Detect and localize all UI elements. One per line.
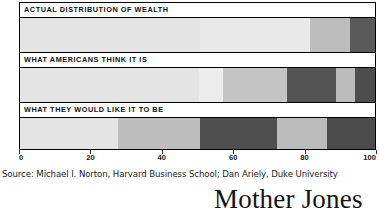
- chart-row-actual: ACTUAL DISTRIBUTION OF WEALTH: [19, 2, 376, 52]
- x-axis: 0 20 40 60 80 100: [19, 150, 376, 168]
- mother-jones-logo: Mother Jones: [214, 186, 363, 212]
- axis-tick-label: 0: [19, 154, 23, 162]
- axis-tick: [376, 150, 377, 154]
- row-label-would-like: WHAT THEY WOULD LIKE IT TO BE: [19, 106, 164, 113]
- chart-row-think: WHAT AMERICANS THINK IT IS: [19, 52, 376, 102]
- chart-row-would-like: WHAT THEY WOULD LIKE IT TO BE: [19, 102, 376, 150]
- axis-tick-label: 40: [158, 154, 166, 162]
- axis-tick-label: 60: [229, 154, 237, 162]
- row-label-band-actual: ACTUAL DISTRIBUTION OF WEALTH: [19, 2, 376, 18]
- row-label-band-think: WHAT AMERICANS THINK IT IS: [19, 52, 376, 68]
- wealth-distribution-chart: ACTUAL DISTRIBUTION OF WEALTH WHAT AMERI…: [0, 0, 379, 212]
- axis-tick-label: 100: [363, 154, 376, 162]
- row-label-band-would-like: WHAT THEY WOULD LIKE IT TO BE: [19, 102, 376, 118]
- source-note: Source: Michael I. Norton, Harvard Busin…: [2, 169, 338, 179]
- row-label-actual: ACTUAL DISTRIBUTION OF WEALTH: [19, 6, 169, 13]
- axis-tick-label: 20: [86, 154, 94, 162]
- axis-tick-label: 80: [300, 154, 308, 162]
- row-label-think: WHAT AMERICANS THINK IT IS: [19, 56, 147, 63]
